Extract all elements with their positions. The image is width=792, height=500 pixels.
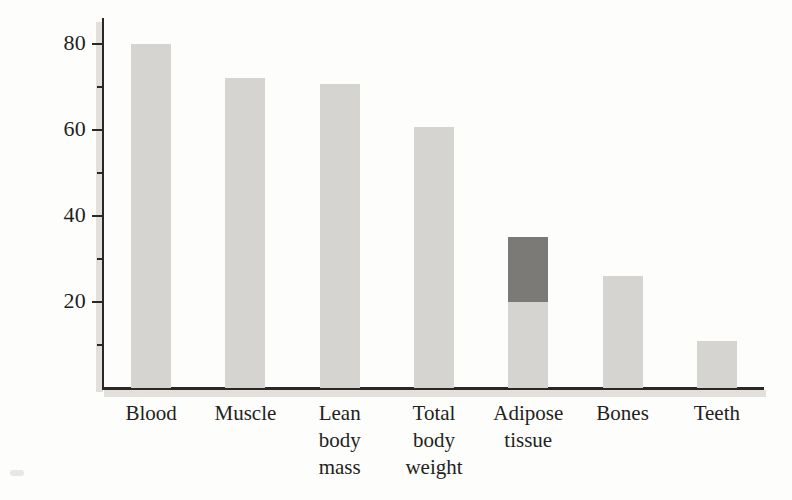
bar-group	[670, 18, 764, 388]
y-axis-minor-tick	[97, 344, 103, 346]
bar	[320, 18, 360, 388]
category-label-line: weight	[376, 454, 492, 481]
y-axis-tick-label: 40	[63, 204, 86, 226]
bar-group	[293, 18, 387, 388]
category-label-line: tissue	[470, 427, 586, 454]
bar-group	[387, 18, 481, 388]
y-axis-tick	[92, 43, 103, 45]
category-label-line: Teeth	[659, 400, 775, 427]
bar-segment-light	[320, 84, 360, 388]
bar-segment-light	[697, 341, 737, 388]
bar-segment-light	[131, 44, 171, 389]
x-axis-category-label: Teeth	[659, 400, 775, 427]
y-axis-tick-label: 20	[63, 290, 86, 312]
bar-group	[198, 18, 292, 388]
bar-segment-light	[414, 127, 454, 388]
bar-segment-dark	[508, 237, 548, 302]
y-axis-tick-label: 80	[63, 32, 86, 54]
y-axis-minor-tick	[97, 172, 103, 174]
bar	[508, 18, 548, 388]
bar-group	[104, 18, 198, 388]
x-axis-shadow	[104, 390, 766, 397]
bar	[131, 18, 171, 388]
y-axis-tick	[92, 301, 103, 303]
bar-segment-light	[225, 78, 265, 388]
y-axis-tick	[92, 129, 103, 131]
y-axis-tick	[92, 215, 103, 217]
bar-segment-light	[603, 276, 643, 388]
y-axis-minor-tick	[97, 258, 103, 260]
bar-group	[575, 18, 669, 388]
plot-area: Percent of water	[104, 18, 764, 388]
bar-group	[481, 18, 575, 388]
scan-artifact	[10, 470, 24, 476]
bar	[697, 18, 737, 388]
bar	[225, 18, 265, 388]
y-axis-tick-label: 60	[63, 118, 86, 140]
bar	[414, 18, 454, 388]
bar-chart-figure: 20406080 Percent of water BloodMuscleLea…	[0, 0, 792, 500]
bar	[603, 18, 643, 388]
bar-segment-light	[508, 302, 548, 388]
y-axis-minor-tick	[97, 86, 103, 88]
